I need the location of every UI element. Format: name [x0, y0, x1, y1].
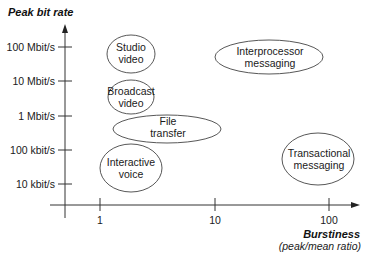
region-interactive-voice: Interactive voice — [100, 144, 162, 192]
x-tick-10: 10 — [209, 214, 221, 226]
region-transactional-messaging: Transactional messaging — [282, 133, 354, 185]
y-tick-10kbit: 10 kbit/s — [16, 178, 55, 190]
y-tick-100kbit: 100 kbit/s — [10, 144, 55, 156]
svg-text:voice: voice — [119, 168, 144, 180]
x-axis-arrow-icon — [351, 202, 360, 208]
x-axis-subtitle: (peak/mean ratio) — [279, 240, 361, 252]
x-axis-title: Burstiness — [303, 228, 360, 240]
y-tick-10mbit: 10 Mbit/s — [12, 75, 55, 87]
svg-text:Interprocessor: Interprocessor — [236, 45, 304, 57]
svg-text:transfer: transfer — [150, 127, 186, 139]
y-axis-title: Peak bit rate — [8, 6, 73, 18]
x-tick-100: 100 — [320, 214, 338, 226]
region-file-transfer: File transfer — [113, 115, 221, 143]
svg-text:File: File — [160, 115, 177, 127]
svg-text:Studio: Studio — [116, 41, 146, 53]
svg-text:Transactional: Transactional — [288, 147, 351, 159]
region-interprocessor-messaging: Interprocessor messaging — [215, 40, 323, 74]
y-axis-arrow-icon — [62, 24, 68, 33]
x-tick-1: 1 — [97, 214, 103, 226]
y-tick-1mbit: 1 Mbit/s — [18, 110, 55, 122]
y-tick-100mbit: 100 Mbit/s — [7, 41, 55, 53]
svg-text:Broadcast: Broadcast — [107, 85, 154, 97]
svg-text:Interactive: Interactive — [107, 156, 156, 168]
svg-text:video: video — [118, 97, 143, 109]
region-broadcast-video: Broadcast video — [107, 80, 154, 114]
x-axis: 1 10 100 Burstiness (peak/mean ratio) — [50, 198, 361, 252]
svg-text:video: video — [118, 53, 143, 65]
svg-text:messaging: messaging — [294, 159, 345, 171]
y-axis: 100 Mbit/s 10 Mbit/s 1 Mbit/s 100 kbit/s… — [7, 6, 74, 218]
burstiness-diagram: 100 Mbit/s 10 Mbit/s 1 Mbit/s 100 kbit/s… — [0, 0, 366, 259]
svg-text:messaging: messaging — [245, 57, 296, 69]
region-studio-video: Studio video — [107, 35, 155, 73]
